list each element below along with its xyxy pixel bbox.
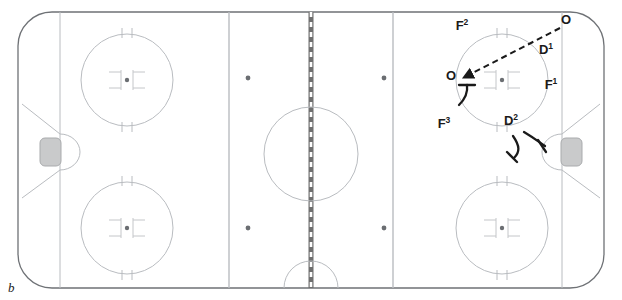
- neutral-dot-upper-left: [246, 76, 251, 81]
- rink-diagram-figure: O F2 D1 O F1 F3 D2 b: [0, 0, 622, 300]
- rink-svg: O F2 D1 O F1 F3 D2 b: [0, 0, 622, 300]
- neutral-dot-upper-right: [382, 76, 387, 81]
- player-label-o-top-right: O: [561, 12, 571, 27]
- player-label-o-left: O: [446, 68, 456, 83]
- neutral-dot-lower-right: [382, 226, 387, 231]
- neutral-dot-lower-left: [246, 226, 251, 231]
- panel-letter: b: [8, 280, 15, 295]
